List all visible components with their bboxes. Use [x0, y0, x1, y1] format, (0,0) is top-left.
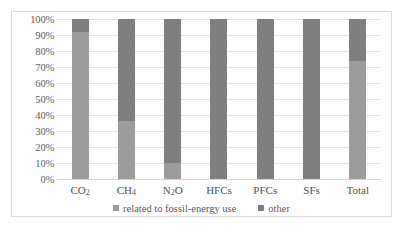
x-axis: CO2CH4N2OHFCsPFCsSFsTotal: [57, 181, 381, 199]
y-tick-label: 50%: [35, 94, 54, 105]
y-tick-label: 100%: [30, 14, 54, 25]
bar-segment-other[interactable]: [257, 19, 274, 179]
bar-slot: [335, 19, 381, 179]
bar-segment-other[interactable]: [72, 19, 89, 32]
bar-segment-fossil-energy[interactable]: [349, 61, 366, 179]
bar-segment-fossil-energy[interactable]: [118, 121, 135, 179]
bar-segment-other[interactable]: [349, 19, 366, 61]
bar-segment-fossil-energy[interactable]: [72, 32, 89, 179]
bar-segment-other[interactable]: [303, 19, 320, 179]
y-tick-label: 80%: [35, 46, 54, 57]
bar-series-group: [57, 19, 381, 179]
y-tick-label: 10%: [35, 158, 54, 169]
y-tick-label: 60%: [35, 78, 54, 89]
x-axis-label: CO2: [57, 181, 103, 199]
bar-slot: [57, 19, 103, 179]
bar-slot: [288, 19, 334, 179]
chart-container: 100% 90% 80% 70% 60% 50% 40% 30% 20% 10%…: [0, 0, 405, 237]
y-tick-label: 40%: [35, 110, 54, 121]
x-axis-label: N2O: [150, 181, 196, 199]
bar-stack[interactable]: [72, 19, 89, 179]
bar-stack[interactable]: [164, 19, 181, 179]
legend-item[interactable]: related to fossil-energy use: [113, 203, 236, 214]
bar-slot: [150, 19, 196, 179]
legend-swatch-icon: [113, 205, 119, 211]
x-axis-label: SFs: [288, 181, 334, 199]
y-axis: 100% 90% 80% 70% 60% 50% 40% 30% 20% 10%…: [14, 19, 54, 179]
y-tick-label: 90%: [35, 30, 54, 41]
plot-area: [57, 19, 381, 179]
x-axis-label: CH4: [103, 181, 149, 199]
bar-stack[interactable]: [210, 19, 227, 179]
chart-legend: related to fossil-energy useother: [11, 200, 392, 216]
bar-segment-other[interactable]: [210, 19, 227, 179]
x-axis-label: HFCs: [196, 181, 242, 199]
bar-slot: [103, 19, 149, 179]
bar-segment-fossil-energy[interactable]: [164, 163, 181, 179]
bar-stack[interactable]: [349, 19, 366, 179]
bar-segment-other[interactable]: [118, 19, 135, 121]
bar-stack[interactable]: [257, 19, 274, 179]
plot-wrapper: 100% 90% 80% 70% 60% 50% 40% 30% 20% 10%…: [11, 11, 392, 217]
x-axis-label: Total: [335, 181, 381, 199]
x-axis-label: PFCs: [242, 181, 288, 199]
axis-baseline: [57, 179, 381, 180]
legend-swatch-icon: [258, 205, 264, 211]
legend-label: other: [268, 203, 290, 214]
y-tick-label: 20%: [35, 142, 54, 153]
bar-stack[interactable]: [118, 19, 135, 179]
legend-label: related to fossil-energy use: [123, 203, 236, 214]
bar-slot: [196, 19, 242, 179]
y-tick-label: 70%: [35, 62, 54, 73]
bar-segment-other[interactable]: [164, 19, 181, 163]
legend-item[interactable]: other: [258, 203, 290, 214]
y-tick-label: 30%: [35, 126, 54, 137]
y-tick-label: 0%: [40, 174, 54, 185]
bar-stack[interactable]: [303, 19, 320, 179]
bar-slot: [242, 19, 288, 179]
